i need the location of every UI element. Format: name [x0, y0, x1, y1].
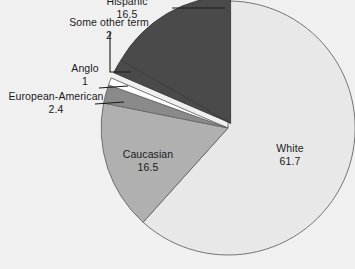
pie-label-anglo-name: Anglo	[56, 62, 114, 75]
pie-chart-figure: Hispanic 16.5 Some other term 2 Anglo 1 …	[0, 0, 355, 269]
pie-label-hispanic-name: Hispanic	[84, 0, 170, 8]
pie-label-white-value: 61.7	[262, 155, 318, 168]
pie-label-anglo: Anglo 1	[56, 62, 114, 87]
pie-label-some-other-term-name: Some other term	[56, 16, 162, 29]
pie-label-anglo-value: 1	[56, 75, 114, 88]
pie-label-white: White 61.7	[262, 142, 318, 167]
pie-label-caucasian-value: 16.5	[104, 161, 192, 174]
pie-label-caucasian-name: Caucasian	[104, 148, 192, 161]
pie-chart-plot	[0, 0, 355, 269]
pie-label-some-other-term-value: 2	[56, 29, 162, 42]
pie-label-white-name: White	[262, 142, 318, 155]
pie-label-european-american: European-American 2.4	[0, 90, 112, 115]
pie-label-caucasian: Caucasian 16.5	[104, 148, 192, 173]
pie-label-some-other-term: Some other term 2	[56, 16, 162, 41]
pie-label-european-american-name: European-American	[0, 90, 112, 103]
pie-label-european-american-value: 2.4	[0, 103, 112, 116]
